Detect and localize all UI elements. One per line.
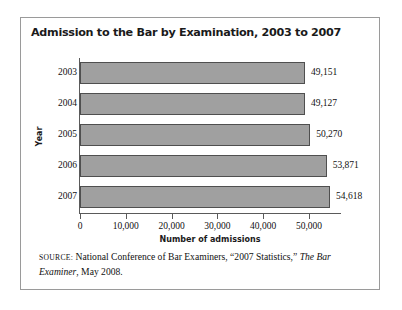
bar-value-label: 49,127 xyxy=(311,98,337,108)
bar xyxy=(80,186,330,208)
figure-container: Admission to the Bar by Examination, 200… xyxy=(20,17,380,290)
bar xyxy=(80,124,310,146)
y-axis-tick-label: 2006 xyxy=(39,160,77,170)
source-label: SOURCE: xyxy=(39,253,73,262)
bar xyxy=(80,155,327,177)
y-axis-tick-label: 2005 xyxy=(39,129,77,139)
x-axis-tick xyxy=(217,214,218,219)
chart-title: Admission to the Bar by Examination, 200… xyxy=(31,26,341,39)
bar-value-label: 54,618 xyxy=(336,191,362,201)
y-axis-tick-label: 2007 xyxy=(39,191,77,201)
y-axis-tick-label: 2004 xyxy=(39,98,77,108)
bar xyxy=(80,62,305,84)
source-note: SOURCE: National Conference of Bar Exami… xyxy=(39,250,365,279)
source-text-part2: , May 2008. xyxy=(76,266,122,277)
x-axis-line xyxy=(79,213,341,214)
bar-value-label: 49,151 xyxy=(311,67,337,77)
bar-value-label: 53,871 xyxy=(333,160,359,170)
source-text-part1: National Conference of Bar Examiners, “2… xyxy=(73,251,299,262)
bar xyxy=(80,93,305,115)
x-axis-tick xyxy=(126,214,127,219)
x-axis-tick xyxy=(172,214,173,219)
bar-value-label: 50,270 xyxy=(316,129,342,139)
x-axis-tick xyxy=(80,214,81,219)
y-axis-tick-label: 2003 xyxy=(39,67,77,77)
x-axis-title: Number of admissions xyxy=(79,235,341,244)
x-axis-tick xyxy=(263,214,264,219)
x-axis-tick-label: 50,000 xyxy=(279,221,339,231)
plot-area: Year 49,15149,12750,27053,87154,618 010,… xyxy=(21,58,381,243)
x-axis-tick xyxy=(309,214,310,219)
